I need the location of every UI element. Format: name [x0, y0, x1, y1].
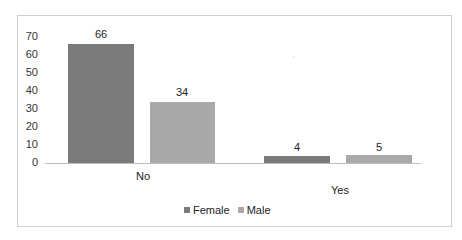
legend: Female Male: [184, 204, 279, 216]
legend-item-male: Male: [238, 204, 271, 216]
bar-male-no: [150, 102, 215, 163]
data-label-female-yes: 4: [277, 141, 317, 153]
y-tick: 10: [14, 138, 38, 150]
legend-label: Female: [193, 204, 230, 216]
scan-artifact: [293, 56, 294, 58]
bar-female-no: [68, 44, 134, 163]
bar-female-yes: [264, 156, 330, 163]
x-axis-line: [45, 163, 421, 164]
category-label-yes: Yes: [315, 184, 365, 196]
y-tick: 50: [14, 66, 38, 78]
data-label-female-no: 66: [81, 28, 121, 40]
y-tick: 0: [14, 156, 38, 168]
legend-item-female: Female: [184, 204, 230, 216]
legend-label: Male: [247, 204, 271, 216]
legend-swatch-icon: [184, 207, 190, 213]
y-tick: 20: [14, 120, 38, 132]
category-label-no: No: [118, 170, 168, 182]
legend-swatch-icon: [238, 207, 244, 213]
y-tick: 40: [14, 84, 38, 96]
y-tick: 30: [14, 102, 38, 114]
bar-male-yes: [346, 155, 412, 163]
data-label-male-no: 34: [162, 86, 202, 98]
data-label-male-yes: 5: [359, 141, 399, 153]
y-tick: 60: [14, 48, 38, 60]
y-tick: 70: [14, 30, 38, 42]
